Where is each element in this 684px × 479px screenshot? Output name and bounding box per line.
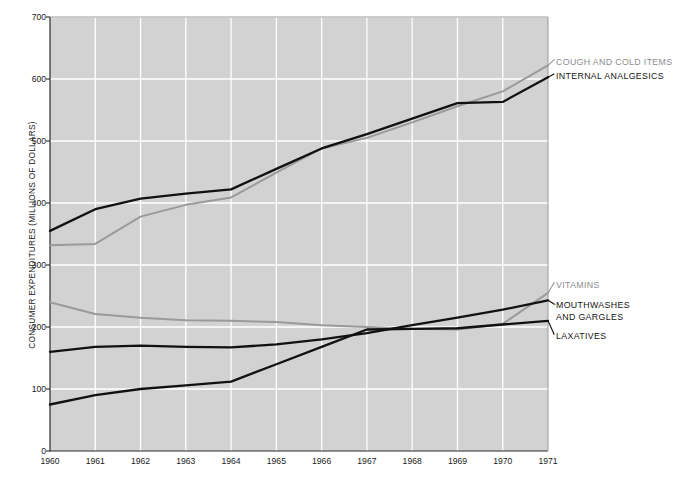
- series-label-mouthwashes-line2: AND GARGLES: [556, 312, 623, 323]
- x-tick-label: 1963: [166, 456, 206, 466]
- series-label-vitamins: VITAMINS: [556, 280, 600, 291]
- series-label-internal-analgesics: INTERNAL ANALGESICS: [556, 71, 664, 82]
- x-tick-label: 1965: [256, 456, 296, 466]
- leader-line-mouthwashes-and-gargles: [548, 300, 554, 304]
- x-tick-label: 1961: [75, 456, 115, 466]
- series-label-laxatives: LAXATIVES: [556, 331, 606, 342]
- x-tick-label: 1970: [483, 456, 523, 466]
- x-tick-label: 1966: [302, 456, 342, 466]
- x-tick-label: 1967: [347, 456, 387, 466]
- series-label-mouthwashes-line1: MOUTHWASHES: [556, 300, 630, 311]
- plot-area-background: [50, 17, 548, 451]
- leader-line-vitamins: [548, 283, 554, 293]
- expenditures-line-chart: CONSUMER EXPENDITURES (MILLIONS OF DOLLA…: [0, 0, 684, 479]
- x-tick-label: 1968: [392, 456, 432, 466]
- x-tick-label: 1971: [528, 456, 568, 466]
- x-tick-label: 1969: [437, 456, 477, 466]
- x-tick-label: 1964: [211, 456, 251, 466]
- leader-line-internal-analgesics: [548, 74, 554, 77]
- x-tick-label: 1962: [121, 456, 161, 466]
- series-label-cough-and-cold: COUGH AND COLD ITEMS: [556, 57, 672, 68]
- x-tick-label: 1960: [30, 456, 70, 466]
- leader-line-laxatives: [548, 321, 554, 334]
- leader-line-cough-and-cold-items: [548, 60, 554, 65]
